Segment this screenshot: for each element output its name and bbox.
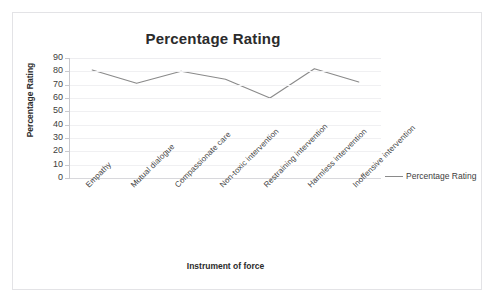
y-axis-tick — [65, 58, 69, 59]
y-axis-tick-label: 80 — [41, 66, 63, 75]
chart-title: Percentage Rating — [13, 30, 413, 47]
legend-entry-label: Percentage Rating — [406, 171, 476, 181]
line-marker-icon — [385, 176, 403, 177]
gridline — [70, 71, 381, 72]
y-axis-tick — [65, 111, 69, 112]
gridline — [70, 125, 381, 126]
y-axis-tick-label: 20 — [41, 146, 63, 155]
y-axis-tick-label: 50 — [41, 106, 63, 115]
y-axis-tick-label: 0 — [41, 173, 63, 182]
y-axis-tick — [65, 165, 69, 166]
y-axis-tick — [65, 151, 69, 152]
y-axis-tick-label: 90 — [41, 53, 63, 62]
y-axis-tick — [65, 85, 69, 86]
y-axis-tick-labels: 9080706050403020100 — [37, 13, 63, 291]
gridline — [70, 85, 381, 86]
gridline — [70, 151, 381, 152]
x-axis-tick-labels: EmpathyMutual dialogueCompassionate care… — [70, 179, 381, 264]
y-axis-tick-label: 10 — [41, 160, 63, 169]
y-axis-tick-label: 70 — [41, 80, 63, 89]
y-axis-title: Percentage Rating — [25, 55, 35, 145]
chart-screenshot: Percentage Rating Percentage Rating 9080… — [0, 0, 494, 301]
chart-figure-frame: Percentage Rating Percentage Rating 9080… — [12, 12, 482, 290]
y-axis-tick — [65, 125, 69, 126]
gridline — [70, 98, 381, 99]
x-axis-title: Instrument of force — [70, 261, 381, 271]
y-axis-tick-label: 30 — [41, 133, 63, 142]
chart-legend: Percentage Rating — [385, 171, 476, 181]
percentage-rating-line — [92, 69, 359, 98]
y-axis-tick — [65, 98, 69, 99]
y-axis-tick — [65, 178, 69, 179]
gridline — [70, 58, 381, 59]
y-axis-tick-label: 60 — [41, 93, 63, 102]
y-axis-tick-label: 40 — [41, 120, 63, 129]
y-axis-tick — [65, 71, 69, 72]
gridline — [70, 111, 381, 112]
y-axis-tick — [65, 138, 69, 139]
clipped-top-text-strip — [0, 0, 494, 9]
